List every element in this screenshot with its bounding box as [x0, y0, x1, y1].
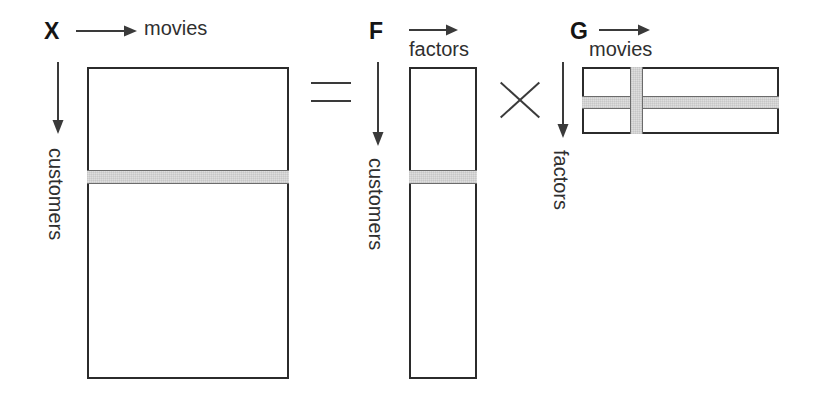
equals-bar-top	[311, 82, 351, 84]
matrix-f-column-axis-label: factors	[409, 39, 469, 59]
matrix-f-row-arrow-down-arrow-icon	[370, 62, 386, 148]
times-operator	[500, 79, 540, 119]
matrix-x-column-axis-label: movies	[144, 18, 207, 38]
matrix-x-box	[87, 67, 289, 379]
matrix-x-column-arrow-right-arrow-icon	[76, 23, 138, 39]
matrix-g-row-arrow-down-arrow-icon	[555, 62, 571, 140]
equals-bar-bottom	[311, 100, 351, 102]
matrix-x-name: X	[44, 20, 59, 43]
matrix-f-box	[409, 67, 477, 379]
matrix-g-name: G	[570, 20, 588, 43]
matrix-f-column-arrow-right-arrow-icon	[409, 22, 459, 38]
matrix-x-customer-row-stripe	[87, 170, 289, 184]
matrix-f-customer-row-stripe	[409, 170, 477, 184]
matrix-f-row-axis-label: customers	[366, 158, 386, 250]
matrix-g-column-arrow-right-arrow-icon	[599, 22, 651, 38]
matrix-g-movie-column-stripe	[630, 67, 643, 134]
matrix-x-row-arrow-down-arrow-icon	[50, 62, 66, 136]
matrix-factorization-diagram: X movies customers F fact	[0, 0, 822, 400]
matrix-g-column-axis-label: movies	[589, 39, 652, 59]
matrix-g-row-axis-label: factors	[551, 150, 571, 210]
matrix-f-name: F	[369, 20, 383, 43]
matrix-g-factor-row-stripe	[582, 96, 779, 109]
equals-operator	[311, 82, 351, 102]
matrix-g-box	[582, 67, 779, 134]
matrix-x-row-axis-label: customers	[46, 148, 66, 240]
